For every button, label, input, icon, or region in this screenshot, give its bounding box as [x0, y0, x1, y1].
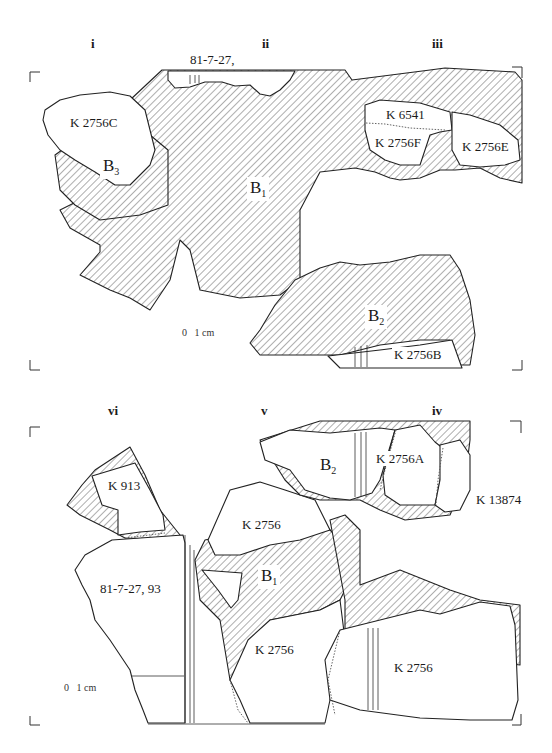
- label-b1-upper: B1: [247, 177, 269, 201]
- label-k2756e: K 2756E: [460, 139, 511, 154]
- label-b2-lower: B2: [317, 454, 339, 478]
- scale-bar-lower: 0 1 cm: [64, 682, 96, 693]
- column-label-ii: ii: [262, 36, 269, 52]
- label-k2756a: K 2756A: [374, 451, 426, 466]
- label-k6541: K 6541: [384, 107, 427, 122]
- fragment-81-7-27-93: [75, 535, 185, 723]
- column-label-iii: iii: [432, 36, 443, 52]
- label-b3: B3: [100, 155, 122, 179]
- label-81-7-27-93: 81-7-27, 93: [98, 581, 163, 596]
- label-b2-upper: B2: [365, 305, 387, 329]
- column-label-vi: vi: [108, 403, 118, 419]
- label-k2756-middle: K 2756: [253, 642, 296, 657]
- label-81-7-27: 81-7-27,: [188, 52, 236, 67]
- label-k13874: K 13874: [474, 492, 523, 507]
- column-label-iv: iv: [432, 403, 442, 419]
- label-k913: K 913: [106, 478, 142, 493]
- label-k2756c: K 2756C: [68, 115, 119, 130]
- join-diagram: [0, 0, 552, 753]
- label-k2756-right: K 2756: [392, 660, 435, 675]
- column-label-v: v: [261, 403, 268, 419]
- column-label-i: i: [91, 36, 95, 52]
- label-k2756f: K 2756F: [373, 135, 423, 150]
- scale-bar-upper: 0 1 cm: [182, 327, 214, 338]
- label-b1-lower: B1: [258, 565, 280, 589]
- label-k2756b: K 2756B: [392, 347, 443, 362]
- label-k2756-upper: K 2756: [240, 517, 283, 532]
- fragment-k13874: [435, 440, 470, 512]
